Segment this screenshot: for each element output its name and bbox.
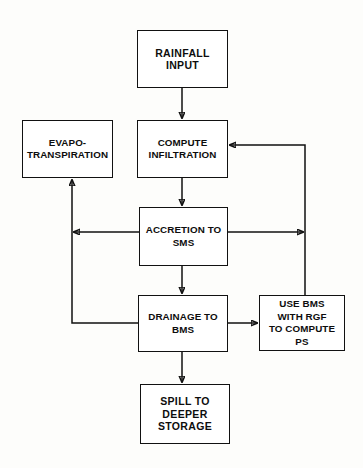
node-spill-to-deeper-storage-label: SPILL TO DEEPER STORAGE [158,395,212,433]
node-use-bms-with-rgf-label: USE BMS WITH RGF TO COMPUTE PS [269,298,335,348]
node-compute-infiltration[interactable]: COMPUTE INFILTRATION [137,120,228,178]
node-compute-infiltration-label: COMPUTE INFILTRATION [149,137,217,162]
node-accretion-to-sms[interactable]: ACCRETION TO SMS [139,207,228,266]
node-rainfall-input[interactable]: RAINFALL INPUT [137,30,228,88]
node-evapotranspiration-label: EVAPO- TRANSPIRATION [27,137,108,162]
node-evapotranspiration[interactable]: EVAPO- TRANSPIRATION [22,120,113,178]
edge-drainage-to-evapo-return [72,180,138,323]
flowchart-canvas: RAINFALL INPUT EVAPO- TRANSPIRATION COMP… [0,0,363,468]
node-accretion-to-sms-label: ACCRETION TO SMS [146,224,222,249]
node-rainfall-input-label: RAINFALL INPUT [155,47,210,72]
node-use-bms-with-rgf[interactable]: USE BMS WITH RGF TO COMPUTE PS [259,295,345,351]
edge-usebms-to-compute-return [230,145,305,295]
node-drainage-to-bms[interactable]: DRAINAGE TO BMS [138,295,228,352]
node-drainage-to-bms-label: DRAINAGE TO BMS [148,311,218,336]
node-spill-to-deeper-storage[interactable]: SPILL TO DEEPER STORAGE [140,384,230,444]
